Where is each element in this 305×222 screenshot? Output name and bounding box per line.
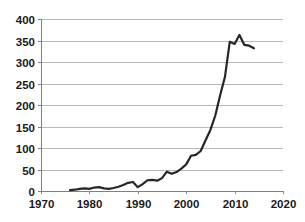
y-tick-label: 350 [16,36,35,48]
x-tick-label: 1970 [29,198,55,210]
x-tick-label: 2020 [271,198,297,210]
y-tick-label: 0 [29,186,35,198]
x-tick-label: 1980 [77,198,103,210]
x-tick-label: 2010 [223,198,249,210]
x-axis-tick-labels: 197019801990200020102020 [29,198,297,210]
gridlines-group [41,20,283,171]
line-chart: 050100150200250300350400 197019801990200… [0,0,305,222]
y-tick-label: 100 [16,143,35,155]
x-tick-label: 2000 [174,198,200,210]
x-tick-label: 1990 [126,198,152,210]
y-tick-label: 200 [16,100,35,112]
y-tick-label: 250 [16,79,35,91]
y-axis-tick-labels: 050100150200250300350400 [16,14,35,198]
y-tick-marks [38,20,41,192]
y-axis-group [38,19,42,192]
y-tick-label: 150 [16,122,35,134]
y-tick-label: 50 [22,165,35,177]
y-tick-label: 400 [16,14,35,26]
data-series-line [70,35,254,190]
y-tick-label: 300 [16,57,35,69]
chart-container: 050100150200250300350400 197019801990200… [0,0,305,222]
x-axis-group [41,191,284,194]
